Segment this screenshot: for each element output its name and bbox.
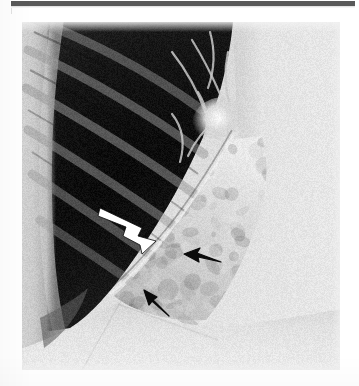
chest-radiograph-figure — [22, 22, 340, 370]
page-edge-mark — [11, 8, 12, 14]
scanned-page-header-shadow — [11, 6, 355, 8]
chest-radiograph-image — [22, 22, 340, 370]
